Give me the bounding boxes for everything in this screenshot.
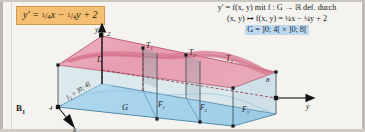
y-axis-tick-label: 8 (266, 76, 270, 84)
formula-fraction-2: 1/4 (67, 12, 76, 21)
z-axis-tick-label: 2 (107, 30, 111, 38)
formula-var-y: y (76, 9, 80, 20)
definition-line-1: y′ = f(x, y) mit f : G → ℝ def. durch (192, 3, 362, 14)
formula-equals: = (32, 9, 39, 20)
formula-minus: − (58, 9, 65, 20)
scan-edge-left (0, 0, 3, 132)
frac2-numerator: 1 (67, 11, 71, 19)
plane-label-L: L (96, 54, 102, 64)
domain-label-G: G (122, 102, 128, 112)
frac1-numerator: 1 (41, 11, 45, 19)
y-tick-mark (274, 96, 277, 99)
scan-edge-top (0, 0, 365, 2)
top-region-label-2: T2 (189, 48, 196, 58)
formula-constant: 2 (93, 9, 98, 20)
z-axis-label: y (94, 25, 99, 34)
z-tick-mark (100, 34, 103, 37)
x-tick-mark (56, 105, 59, 108)
formula-lhs: y′ (23, 9, 30, 20)
page-margin-rule (11, 0, 12, 132)
y-axis-label: y (305, 102, 310, 111)
three-d-diagram: 2 y 8 y 4 x L G I1 = ]0; 4[ (40, 22, 350, 132)
y-axis-arrow (306, 95, 314, 102)
formula-fraction-1: 1/4 (41, 12, 50, 21)
figure-page: y′ = 1/4x − 1/4y + 2 y′ = f(x, y) mit f … (0, 0, 365, 132)
x-axis-label: x (72, 125, 77, 132)
caption-subscript: 1 (22, 108, 25, 115)
formula-plus: + (83, 9, 90, 20)
x-axis-tick-label: 4 (49, 104, 53, 112)
z-axis-arrow (99, 24, 106, 32)
formula-var-x: x (51, 9, 55, 20)
top-region-label-1: T1 (146, 41, 153, 51)
figure-caption: B1 (16, 103, 25, 115)
